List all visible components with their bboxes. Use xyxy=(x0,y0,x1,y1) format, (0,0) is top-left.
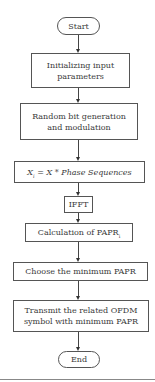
ifft-label: IFFT xyxy=(69,199,89,210)
phase-sequence-box: Xi = X * Phase Sequences xyxy=(14,161,145,183)
start-label: Start xyxy=(68,21,89,32)
end-label: End xyxy=(71,354,87,365)
connector-init-random xyxy=(78,88,79,99)
init-process-box: Initializing input parameters xyxy=(31,53,130,88)
connector-choose-transmit xyxy=(78,281,79,296)
choose-min-papr-box: Choose the minimum PAPR xyxy=(13,262,148,281)
start-terminal: Start xyxy=(57,17,100,35)
phase-label: Xi = X * Phase Sequences xyxy=(27,167,131,178)
calc-label-subscript: i xyxy=(119,233,121,239)
init-label: Initializing input parameters xyxy=(35,60,126,82)
connector-phase-ifft xyxy=(78,183,79,192)
random-process-box: Random bit generation and modulation xyxy=(20,103,138,140)
connector-transmit-end xyxy=(78,332,79,347)
ifft-process-box: IFFT xyxy=(64,196,93,213)
choose-label: Choose the minimum PAPR xyxy=(25,266,136,277)
phase-label-rest: = X * Phase Sequences xyxy=(35,168,132,177)
calc-label: Calculation of PAPRi xyxy=(38,227,120,238)
transmit-ofdm-box: Transmit the related OFDM symbol with mi… xyxy=(13,300,149,332)
connector-start-init xyxy=(78,35,79,49)
transmit-label: Transmit the related OFDM symbol with mi… xyxy=(17,305,145,327)
calc-label-main: Calculation of PAPR xyxy=(38,228,119,237)
random-label: Random bit generation and modulation xyxy=(24,111,134,133)
calc-papr-box: Calculation of PAPRi xyxy=(25,223,133,242)
end-terminal: End xyxy=(58,351,100,368)
connector-calc-choose xyxy=(78,242,79,258)
connector-random-phase xyxy=(78,140,79,157)
bottom-divider xyxy=(0,379,155,380)
